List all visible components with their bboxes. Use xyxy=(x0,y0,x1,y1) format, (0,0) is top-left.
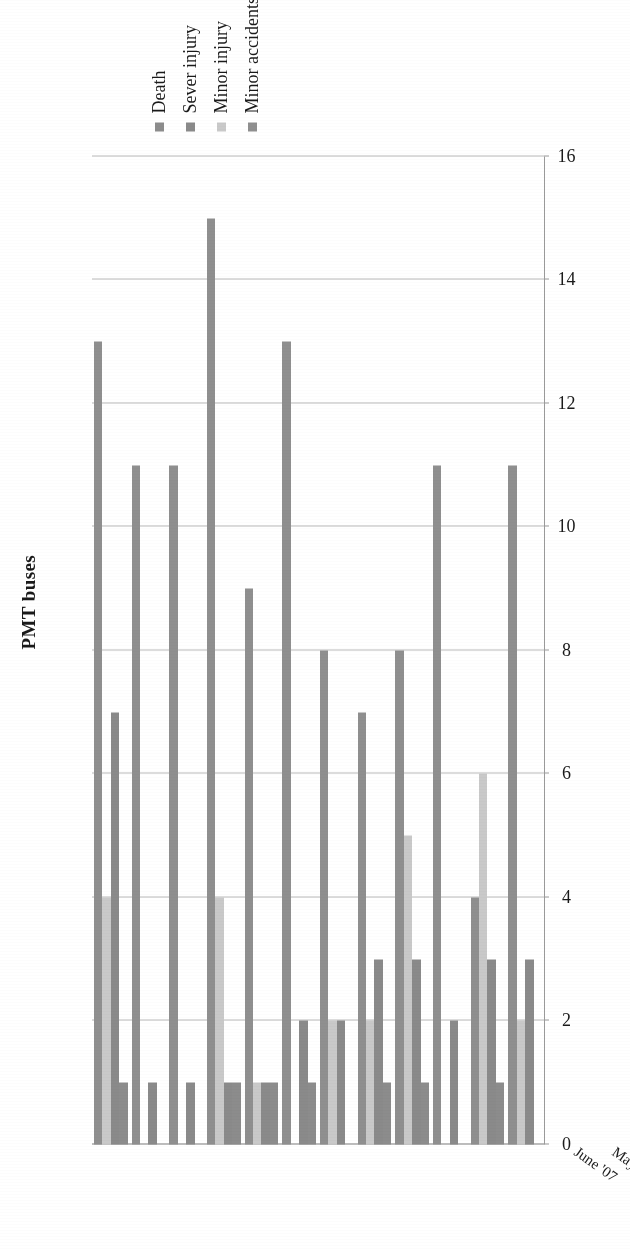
legend-label: Death xyxy=(150,70,168,113)
bar-group xyxy=(205,156,243,1144)
bar-death xyxy=(308,1082,316,1144)
bar-minor-accidents xyxy=(207,218,215,1144)
bar-group xyxy=(243,156,281,1144)
bar-chart-figure: PMT buses DeathSever injuryMinor injuryM… xyxy=(0,0,630,1249)
bar-group xyxy=(167,156,205,1144)
bar-minor-injury xyxy=(366,1021,374,1145)
legend-swatch-icon xyxy=(155,122,164,131)
chart-rotation-stage: PMT buses DeathSever injuryMinor injuryM… xyxy=(0,0,630,1249)
value-axis-label: 2 xyxy=(562,1010,571,1031)
bar-minor-injury xyxy=(517,1021,525,1145)
bar-minor-accidents xyxy=(508,465,516,1144)
bar-sever-injury xyxy=(261,1082,269,1144)
plot-area xyxy=(92,156,544,1144)
bar-minor-accidents xyxy=(132,465,140,1144)
chart-title: PMT buses xyxy=(18,554,40,649)
bar-minor-accidents xyxy=(169,465,177,1144)
value-axis-label: 0 xyxy=(562,1134,571,1155)
bar-group xyxy=(506,156,544,1144)
legend-item: Sever injury xyxy=(181,0,199,131)
value-tick xyxy=(544,1143,549,1144)
bar-minor-accidents xyxy=(395,650,403,1144)
value-axis-label: 4 xyxy=(562,887,571,908)
bar-minor-accidents xyxy=(320,650,328,1144)
value-tick xyxy=(544,279,549,280)
bar-sever-injury xyxy=(337,1021,345,1145)
legend-swatch-icon xyxy=(186,122,195,131)
legend-swatch-icon xyxy=(248,122,257,131)
legend-item: Minor accidents xyxy=(243,0,261,131)
value-tick xyxy=(544,649,549,650)
bar-minor-accidents xyxy=(433,465,441,1144)
bar-minor-injury xyxy=(215,897,223,1144)
bar-sever-injury xyxy=(450,1021,458,1145)
value-tick xyxy=(544,402,549,403)
bar-sever-injury xyxy=(186,1082,194,1144)
bar-group xyxy=(92,156,130,1144)
legend-label: Minor injury xyxy=(212,21,230,114)
bar-sever-injury xyxy=(148,1082,156,1144)
chart-legend: DeathSever injuryMinor injuryMinor accid… xyxy=(150,0,261,131)
bar-minor-injury xyxy=(479,774,487,1145)
value-axis: 0246810121416 xyxy=(544,156,614,1144)
bar-minor-injury xyxy=(404,835,412,1144)
value-axis-label: 16 xyxy=(558,146,576,167)
value-axis-label: 10 xyxy=(558,516,576,537)
bar-group xyxy=(469,156,507,1144)
bar-sever-injury xyxy=(299,1021,307,1145)
bar-death xyxy=(383,1082,391,1144)
bar-minor-accidents xyxy=(245,588,253,1144)
bar-minor-injury xyxy=(253,1082,261,1144)
legend-item: Death xyxy=(150,0,168,131)
value-tick xyxy=(544,526,549,527)
value-axis-label: 6 xyxy=(562,763,571,784)
bar-death xyxy=(119,1082,127,1144)
bar-sever-injury xyxy=(412,959,420,1144)
legend-label: Sever injury xyxy=(181,25,199,113)
bar-minor-injury xyxy=(328,1021,336,1145)
legend-label: Minor accidents xyxy=(243,0,261,113)
bar-group xyxy=(356,156,394,1144)
bar-group xyxy=(318,156,356,1144)
bar-minor-accidents xyxy=(471,897,479,1144)
bar-death xyxy=(232,1082,240,1144)
value-tick xyxy=(544,1020,549,1021)
value-tick xyxy=(544,896,549,897)
bar-death xyxy=(421,1082,429,1144)
legend-item: Minor injury xyxy=(212,0,230,131)
bar-sever-injury xyxy=(525,959,533,1144)
bar-sever-injury xyxy=(487,959,495,1144)
bar-sever-injury xyxy=(374,959,382,1144)
bar-sever-injury xyxy=(224,1082,232,1144)
bar-death xyxy=(496,1082,504,1144)
value-tick xyxy=(544,155,549,156)
bar-minor-accidents xyxy=(94,341,102,1144)
legend-swatch-icon xyxy=(217,122,226,131)
bar-group xyxy=(393,156,431,1144)
value-tick xyxy=(544,773,549,774)
value-axis-label: 8 xyxy=(562,640,571,661)
bar-minor-accidents xyxy=(282,341,290,1144)
bar-group xyxy=(280,156,318,1144)
bar-death xyxy=(270,1082,278,1144)
bars-container xyxy=(92,156,544,1144)
value-axis-label: 14 xyxy=(558,269,576,290)
bar-minor-injury xyxy=(102,897,110,1144)
value-axis-label: 12 xyxy=(558,393,576,414)
bar-minor-accidents xyxy=(358,712,366,1144)
bar-group xyxy=(431,156,469,1144)
bar-sever-injury xyxy=(111,712,119,1144)
bar-group xyxy=(130,156,168,1144)
